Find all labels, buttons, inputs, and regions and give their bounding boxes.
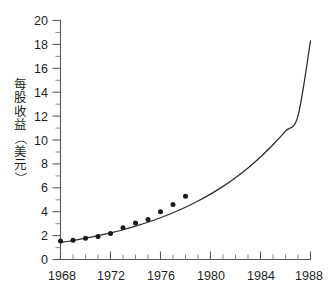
data-point: [183, 194, 188, 199]
y-tick-label: 20: [34, 14, 48, 28]
data-point: [133, 221, 138, 226]
y-axis-label-char: 每: [9, 78, 31, 91]
data-point: [71, 238, 76, 243]
y-tick-label: 0: [41, 253, 48, 267]
exponential-fit-curve: [61, 41, 311, 243]
x-tick-label: 1968: [48, 269, 76, 283]
data-point: [158, 209, 163, 214]
y-tick-label: 4: [41, 205, 48, 219]
y-axis-tick-labels: 0 2 4 6 8 10 12 14 16 18 20: [34, 14, 48, 267]
x-axis-ticks: [61, 252, 311, 260]
y-axis-label: 每股收益（美元）: [9, 78, 31, 185]
y-tick-label: 10: [34, 134, 48, 148]
y-tick-label: 12: [34, 110, 48, 124]
scatter-points-group: [58, 194, 188, 244]
data-point: [171, 202, 176, 207]
data-point: [108, 231, 113, 236]
data-point: [58, 238, 63, 243]
chart-figure: 0 2 4 6 8 10 12 14 16 18 20: [0, 0, 335, 297]
y-tick-label: 6: [41, 181, 48, 195]
y-tick-label: 16: [34, 62, 48, 76]
chart-plot-area: 0 2 4 6 8 10 12 14 16 18 20: [0, 0, 335, 297]
data-point: [146, 217, 151, 222]
data-point: [96, 234, 101, 239]
x-tick-label: 1976: [147, 269, 175, 283]
data-point: [121, 225, 126, 230]
y-tick-label: 14: [34, 86, 48, 100]
y-axis-label-char: （: [13, 127, 26, 149]
x-tick-label: 1984: [247, 269, 275, 283]
y-axis-ticks: [53, 21, 61, 260]
y-axis-label-char: 收: [9, 105, 31, 118]
y-tick-label: 2: [41, 229, 48, 243]
data-point: [83, 236, 88, 241]
y-tick-label: 18: [34, 38, 48, 52]
x-axis-tick-labels: 1968 1972 1976 1980 1984 1988: [48, 269, 323, 283]
y-tick-label: 8: [41, 157, 48, 171]
x-tick-label: 1980: [197, 269, 225, 283]
y-axis-label-char: ）: [13, 167, 26, 189]
y-axis-label-char: 股: [9, 91, 31, 104]
x-tick-label: 1988: [295, 269, 323, 283]
x-tick-label: 1972: [97, 269, 125, 283]
